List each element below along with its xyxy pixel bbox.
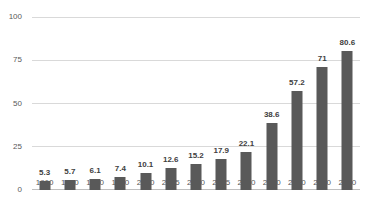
y-tick-label: 50 (0, 100, 22, 108)
bar-value-label: 38.6 (264, 111, 280, 119)
bar-column: 38.6 (259, 17, 284, 190)
x-tick-label: 2010 (187, 178, 205, 188)
bar-value-label: 22.1 (239, 140, 255, 148)
x-tick-label: 1960 (36, 178, 54, 188)
y-tick-label: 75 (0, 56, 22, 64)
bar-value-label: 80.6 (340, 39, 356, 47)
bar-column: 12.6 (158, 17, 183, 190)
x-tick-label: 2015 (212, 178, 230, 188)
bar-value-label: 12.6 (163, 156, 179, 164)
bar-column: 22.1 (234, 17, 259, 190)
x-tick-label: 2050 (313, 178, 331, 188)
bar-value-label: 17.9 (213, 147, 229, 155)
bar-value-label: 57.2 (289, 79, 305, 87)
x-tick-label: 2020 (238, 178, 256, 188)
y-tick-label: 25 (0, 143, 22, 151)
bar-column: 6.1 (82, 17, 107, 190)
y-tick-label: 0 (0, 186, 22, 194)
bar-value-label: 10.1 (138, 161, 154, 169)
bar-value-label: 71 (318, 55, 327, 63)
bar-value-label: 5.7 (64, 168, 75, 176)
bar-column: 5.3 (32, 17, 57, 190)
x-tick-label: 2000 (137, 178, 155, 188)
bar-chart: 5.35.76.17.410.112.615.217.922.138.657.2… (0, 0, 371, 220)
bar-column: 80.6 (335, 17, 360, 190)
bar-column: 71 (310, 17, 335, 190)
bar-column: 17.9 (209, 17, 234, 190)
bar-column: 10.1 (133, 17, 158, 190)
y-tick-label: 100 (0, 13, 22, 21)
bar (317, 67, 328, 190)
x-tick-label: 2060 (338, 178, 356, 188)
bar-column: 57.2 (284, 17, 309, 190)
x-tick-label: 1980 (86, 178, 104, 188)
x-tick-label: 2040 (288, 178, 306, 188)
x-tick-label: 1970 (61, 178, 79, 188)
plot-area: 5.35.76.17.410.112.615.217.922.138.657.2… (32, 17, 360, 190)
bar-value-label: 15.2 (188, 152, 204, 160)
bar-value-label: 6.1 (90, 167, 101, 175)
x-tick-label: 2030 (263, 178, 281, 188)
bar-value-label: 7.4 (115, 165, 126, 173)
x-tick-label: 1990 (111, 178, 129, 188)
bar-column: 5.7 (57, 17, 82, 190)
bar-column: 7.4 (108, 17, 133, 190)
bar (342, 51, 353, 190)
x-tick-label: 2005 (162, 178, 180, 188)
bar-value-label: 5.3 (39, 169, 50, 177)
bar (291, 91, 302, 190)
bar-column: 15.2 (183, 17, 208, 190)
